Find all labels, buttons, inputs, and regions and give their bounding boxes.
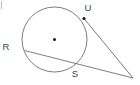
- tangent-line-through-u: [84, 19, 133, 79]
- secant-line-through-r-and-s: [25, 51, 134, 79]
- point-label-u: U: [85, 2, 92, 13]
- geometry-figure: U R S: [0, 0, 140, 85]
- circle-center-dot: [53, 38, 56, 41]
- point-marker-u: [82, 17, 85, 20]
- geometry-canvas: U R S: [0, 0, 140, 85]
- point-label-s: S: [72, 68, 78, 79]
- point-label-r: R: [3, 41, 10, 52]
